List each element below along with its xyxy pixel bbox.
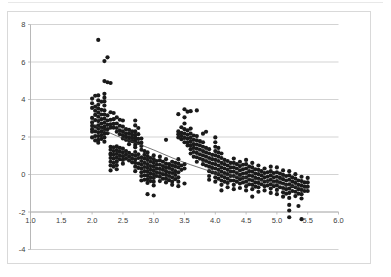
data-point bbox=[102, 108, 106, 112]
data-point bbox=[204, 130, 208, 134]
data-point bbox=[136, 132, 140, 136]
y-tick-label: -4 bbox=[19, 245, 26, 254]
data-point bbox=[102, 135, 106, 139]
data-point bbox=[262, 188, 266, 192]
data-point bbox=[152, 193, 156, 197]
data-point bbox=[256, 185, 260, 189]
x-tick-label: 3.5 bbox=[179, 216, 189, 225]
data-point bbox=[275, 165, 279, 169]
data-point bbox=[299, 196, 303, 200]
data-point bbox=[281, 168, 285, 172]
data-point bbox=[293, 172, 297, 176]
data-point bbox=[275, 192, 279, 196]
data-point bbox=[216, 146, 220, 150]
x-tick-label: 1.0 bbox=[25, 216, 35, 225]
y-tick-label: 6 bbox=[21, 58, 25, 67]
y-tick-label: 0 bbox=[21, 170, 25, 179]
data-point bbox=[281, 195, 285, 199]
x-tick-label: 3.0 bbox=[148, 216, 158, 225]
data-point bbox=[189, 109, 193, 113]
data-point bbox=[90, 101, 94, 105]
data-point bbox=[244, 158, 248, 162]
data-point bbox=[306, 180, 310, 184]
data-point bbox=[182, 181, 186, 185]
x-tick-label: 5.5 bbox=[302, 216, 312, 225]
data-point bbox=[195, 134, 199, 138]
data-point bbox=[164, 157, 168, 161]
data-point bbox=[219, 183, 223, 187]
data-point bbox=[213, 140, 217, 144]
data-point bbox=[152, 183, 156, 187]
data-point bbox=[250, 195, 254, 199]
data-point bbox=[269, 191, 273, 195]
data-point bbox=[232, 187, 236, 191]
data-point bbox=[182, 121, 186, 125]
data-point bbox=[207, 178, 211, 182]
data-point bbox=[226, 185, 230, 189]
data-point bbox=[136, 126, 140, 130]
data-point bbox=[112, 111, 116, 115]
data-point bbox=[306, 176, 310, 180]
data-point bbox=[219, 151, 223, 155]
data-point bbox=[256, 163, 260, 167]
data-point bbox=[213, 135, 217, 139]
data-point bbox=[213, 180, 217, 184]
data-point bbox=[133, 169, 137, 173]
data-point bbox=[152, 153, 156, 157]
data-point bbox=[306, 189, 310, 193]
data-point bbox=[136, 152, 140, 156]
y-tick-label: 2 bbox=[21, 133, 25, 142]
data-point bbox=[299, 192, 303, 196]
data-point bbox=[102, 59, 106, 63]
x-tick-label: 6.0 bbox=[333, 216, 343, 225]
data-point bbox=[115, 167, 119, 171]
y-tick-label: 4 bbox=[21, 95, 25, 104]
x-tick-label: 2.5 bbox=[118, 216, 128, 225]
data-point bbox=[207, 147, 211, 151]
data-point bbox=[105, 55, 109, 59]
data-point bbox=[115, 163, 119, 167]
data-point bbox=[189, 126, 193, 130]
data-point bbox=[108, 81, 112, 85]
data-point bbox=[96, 141, 100, 145]
data-point bbox=[158, 155, 162, 159]
y-tick-label: 8 bbox=[21, 20, 25, 29]
x-tick-label: 5.0 bbox=[272, 216, 282, 225]
data-point bbox=[127, 142, 131, 146]
data-point bbox=[244, 188, 248, 192]
data-point bbox=[152, 180, 156, 184]
data-point bbox=[250, 161, 254, 165]
data-point bbox=[102, 103, 106, 107]
x-tick-label: 4.5 bbox=[241, 216, 251, 225]
data-point bbox=[102, 96, 106, 100]
data-point bbox=[269, 165, 273, 169]
data-point bbox=[170, 183, 174, 187]
data-point bbox=[296, 204, 300, 208]
data-point bbox=[145, 192, 149, 196]
data-point bbox=[121, 162, 125, 166]
data-point bbox=[96, 93, 100, 97]
data-point bbox=[262, 166, 266, 170]
data-point bbox=[195, 108, 199, 112]
data-point bbox=[102, 99, 106, 103]
data-point bbox=[102, 92, 106, 96]
data-point bbox=[256, 190, 260, 194]
data-point bbox=[287, 208, 291, 212]
chart-figure: 86420-2-41.01.52.02.53.03.54.04.55.05.56… bbox=[0, 0, 391, 277]
data-point bbox=[182, 115, 186, 119]
data-point bbox=[176, 112, 180, 116]
data-point bbox=[238, 186, 242, 190]
data-point bbox=[139, 136, 143, 140]
data-point bbox=[182, 166, 186, 170]
data-point bbox=[164, 138, 168, 142]
data-point bbox=[232, 156, 236, 160]
data-point bbox=[195, 160, 199, 164]
x-tick-label: 1.5 bbox=[56, 216, 66, 225]
data-point bbox=[287, 215, 291, 219]
data-point bbox=[238, 160, 242, 164]
data-point bbox=[176, 175, 180, 179]
data-point bbox=[176, 184, 180, 188]
data-point bbox=[287, 169, 291, 173]
data-point bbox=[145, 150, 149, 154]
data-point bbox=[207, 174, 211, 178]
